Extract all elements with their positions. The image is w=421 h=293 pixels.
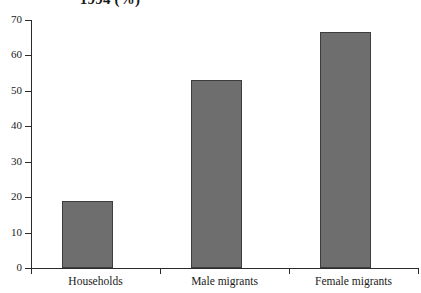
bar-male-migrants xyxy=(191,80,242,268)
x-axis-category-label: Male migrants xyxy=(160,274,289,288)
y-axis-label: 40 xyxy=(0,120,22,131)
y-axis-tick xyxy=(25,126,31,127)
y-axis-tick xyxy=(25,197,31,198)
bar-female-migrants xyxy=(320,32,371,268)
y-axis-label: 30 xyxy=(0,156,22,167)
x-axis-tick xyxy=(418,269,419,274)
y-axis-label: 10 xyxy=(0,227,22,238)
chart-title: 1994 (%) xyxy=(0,0,220,8)
y-axis-tick xyxy=(25,233,31,234)
y-axis-label: 50 xyxy=(0,85,22,96)
y-axis-line xyxy=(31,20,32,269)
y-axis-tick xyxy=(25,55,31,56)
y-axis-tick xyxy=(25,91,31,92)
y-axis-label: 60 xyxy=(0,49,22,60)
x-axis-category-label: Female migrants xyxy=(289,274,418,288)
bar-households xyxy=(62,201,113,268)
y-axis-label: 20 xyxy=(0,191,22,202)
bar-chart: 1994 (%) 70 60 50 40 30 20 10 0 Househol… xyxy=(0,0,421,293)
x-axis-category-label: Households xyxy=(31,274,160,288)
y-axis-label: 0 xyxy=(0,262,22,273)
x-axis-line xyxy=(31,268,419,269)
y-axis-label: 70 xyxy=(0,14,22,25)
y-axis-tick xyxy=(25,162,31,163)
y-axis-tick xyxy=(25,20,31,21)
